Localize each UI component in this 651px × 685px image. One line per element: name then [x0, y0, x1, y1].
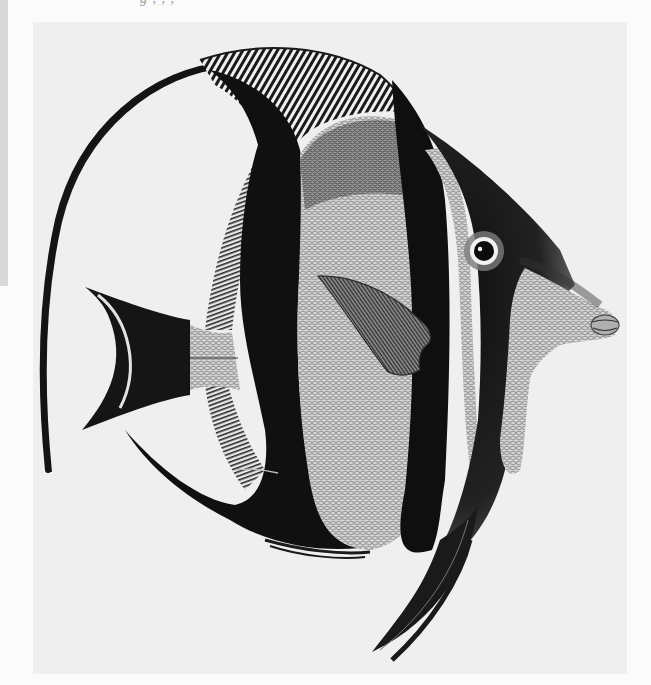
caudal-peduncle	[185, 322, 240, 392]
lips	[591, 315, 619, 335]
caudal-fin	[82, 287, 190, 430]
top-caption-cutoff: g , , ,	[140, 0, 175, 7]
page: g , , ,	[0, 0, 651, 685]
soft-anal-rays	[205, 385, 265, 490]
adjacent-page-edge	[0, 0, 8, 286]
illustration-plate	[33, 22, 627, 674]
eye-pupil	[474, 241, 494, 261]
snout	[500, 268, 617, 474]
fish-illustration	[33, 22, 627, 674]
